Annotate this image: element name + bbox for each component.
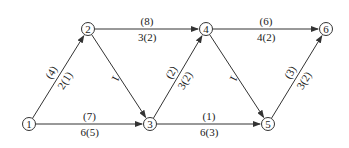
edge-1-3-upper-label: (7) bbox=[83, 111, 96, 122]
node-6: 6 bbox=[319, 22, 333, 36]
node-5: 5 bbox=[261, 117, 275, 131]
node-label: 5 bbox=[265, 119, 271, 130]
edge-3-4 bbox=[154, 36, 202, 118]
edge-4-6-lower-label: 4(2) bbox=[257, 32, 275, 43]
edge-2-4-lower-label: 3(2) bbox=[138, 32, 156, 43]
node-label: 4 bbox=[203, 24, 209, 35]
node-label: 1 bbox=[26, 119, 32, 130]
node-label: 6 bbox=[323, 24, 329, 35]
node-1: 1 bbox=[22, 117, 36, 131]
edge-1-3-lower-label: 6(5) bbox=[81, 127, 99, 138]
edge-5-6 bbox=[272, 36, 322, 118]
edge-2-4-upper-label: (8) bbox=[141, 16, 154, 27]
edge-4-6-upper-label: (6) bbox=[260, 16, 273, 27]
node-2: 2 bbox=[81, 22, 95, 36]
edges-layer bbox=[33, 29, 322, 124]
node-label: 2 bbox=[85, 24, 91, 35]
node-4: 4 bbox=[199, 22, 213, 36]
edge-3-5-lower-label: 6(3) bbox=[200, 127, 218, 138]
edge-3-5-upper-label: (1) bbox=[203, 111, 216, 122]
node-3: 3 bbox=[143, 117, 157, 131]
node-label: 3 bbox=[147, 119, 153, 130]
